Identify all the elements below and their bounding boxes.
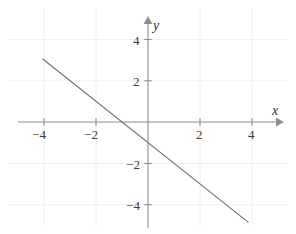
y-tick-label-4: 4: [133, 34, 140, 47]
x-tick-label--4: −4: [32, 128, 46, 141]
x-axis: [18, 118, 284, 127]
y-tick-label--4: −4: [126, 199, 140, 212]
y-tick-label-2: 2: [133, 75, 140, 88]
graph-figure: −4 −2 2 4 4 2 −2 −4 x y: [0, 0, 296, 234]
x-tick-label-2: 2: [196, 128, 203, 141]
data-line-series-1: [43, 59, 248, 222]
cartesian-plot: [0, 0, 296, 234]
y-axis-label: y: [153, 19, 159, 33]
y-axis-arrowhead: [144, 16, 153, 24]
x-tick-label-4: 4: [248, 128, 255, 141]
x-axis-label: x: [272, 104, 278, 118]
y-tick-label--2: −2: [126, 158, 140, 171]
x-axis-arrowhead: [276, 118, 284, 127]
x-tick-label--2: −2: [84, 128, 98, 141]
